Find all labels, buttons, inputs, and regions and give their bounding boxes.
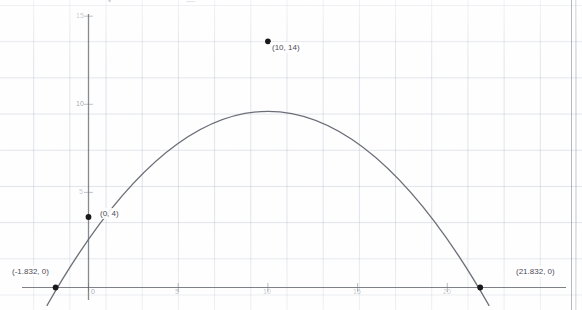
y-tick-label-10: 10 bbox=[76, 100, 84, 107]
annotation-vertex: (10, 14) bbox=[270, 42, 302, 53]
y-tick-label-15: 15 bbox=[76, 12, 84, 19]
x-tick-label-5: 5 bbox=[175, 288, 179, 295]
annotation-y-intercept: (0, 4) bbox=[98, 208, 121, 219]
x-tick-label-15: 15 bbox=[353, 288, 361, 295]
x-tick-label-10: 10 bbox=[263, 288, 271, 295]
point-y-intercept bbox=[86, 214, 92, 220]
annotation-left-root: (-1.832, 0) bbox=[10, 266, 51, 277]
point-right-root bbox=[477, 285, 483, 291]
point-left-root bbox=[53, 285, 59, 291]
page-edge-rule bbox=[571, 0, 572, 310]
annotation-right-root: (21.832, 0) bbox=[514, 266, 557, 277]
graph-scan-canvas: • — 0 5 10 15 20 5 bbox=[0, 0, 582, 310]
y-tick-label-5: 5 bbox=[79, 188, 83, 195]
x-tick-label-0: 0 bbox=[91, 288, 95, 295]
x-tick-label-20: 20 bbox=[443, 288, 451, 295]
page-edge-rule-secondary bbox=[575, 0, 576, 310]
